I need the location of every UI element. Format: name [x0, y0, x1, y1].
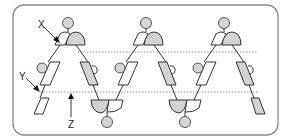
peak-circle-icon	[219, 18, 230, 29]
trough-circle-icon	[102, 117, 113, 128]
peak-circle-icon	[63, 18, 74, 29]
trough-circle-icon	[180, 117, 191, 128]
diagram-canvas: X Y Z	[0, 0, 287, 140]
side-circle-icon	[115, 63, 125, 73]
label-z: Z	[68, 119, 74, 130]
label-x: X	[38, 19, 45, 30]
label-y: Y	[19, 71, 26, 82]
peak-circle-icon	[141, 18, 152, 29]
side-circle-icon	[37, 63, 47, 73]
side-circle-icon	[193, 63, 203, 73]
